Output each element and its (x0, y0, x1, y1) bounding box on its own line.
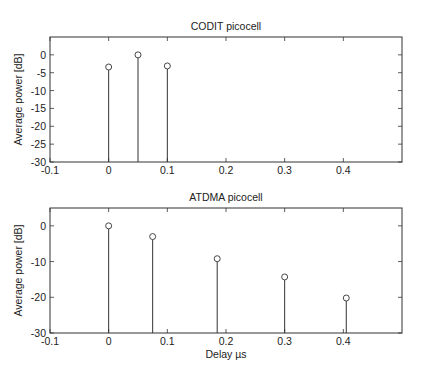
y-axis-label: Average power [dB] (12, 53, 24, 145)
figure: CODIT picocell-0.100.10.20.30.40-5-10-15… (0, 0, 426, 378)
y-tick-label: 0 (40, 49, 46, 61)
x-tick-label: 0.2 (219, 164, 234, 176)
x-tick-label: 0.3 (277, 164, 292, 176)
stem-marker (164, 63, 170, 69)
plot-codit-picocell: CODIT picocell-0.100.10.20.30.40-5-10-15… (12, 20, 402, 176)
stem-marker (135, 52, 141, 58)
y-tick-label: -15 (31, 102, 46, 114)
y-tick-label: -25 (31, 138, 46, 150)
x-tick-label: 0.2 (219, 335, 234, 347)
chart-title: CODIT picocell (191, 20, 261, 32)
stem-marker (106, 64, 112, 70)
plot-atdma-picocell: ATDMA picocell-0.100.10.20.30.40-10-20-3… (12, 191, 402, 360)
x-tick-label: 0 (106, 164, 112, 176)
y-tick-label: 0 (40, 220, 46, 232)
y-tick-label: -10 (31, 85, 46, 97)
stem-marker (214, 256, 220, 262)
axes-frame (50, 208, 402, 333)
y-axis-label: Average power [dB] (12, 224, 24, 316)
axes-frame (50, 37, 402, 162)
x-tick-label: 0.1 (160, 335, 175, 347)
x-tick-label: 0.4 (336, 164, 351, 176)
y-tick-label: -20 (31, 120, 46, 132)
x-tick-label: 0 (106, 335, 112, 347)
y-tick-label: -30 (31, 327, 46, 339)
chart-title: ATDMA picocell (189, 191, 262, 203)
stem-marker (106, 223, 112, 229)
y-tick-label: -5 (37, 67, 46, 79)
x-axis-label: Delay µs (205, 348, 246, 360)
stem-marker (282, 274, 288, 280)
y-tick-label: -30 (31, 156, 46, 168)
x-tick-label: 0.3 (277, 335, 292, 347)
y-tick-label: -10 (31, 256, 46, 268)
x-tick-label: 0.4 (336, 335, 351, 347)
stem-marker (150, 234, 156, 240)
x-tick-label: 0.1 (160, 164, 175, 176)
y-tick-label: -20 (31, 291, 46, 303)
stem-marker (343, 295, 349, 301)
